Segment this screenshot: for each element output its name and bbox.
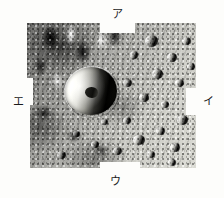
small-crater — [187, 63, 195, 70]
small-crater — [152, 69, 163, 79]
small-crater — [170, 143, 180, 152]
small-crater — [147, 151, 155, 158]
small-crater — [101, 119, 108, 125]
small-crater — [113, 147, 122, 155]
callout-label-u: ウ — [110, 176, 121, 187]
small-crater — [182, 37, 191, 45]
small-crater — [133, 135, 145, 145]
main-crater — [65, 67, 117, 115]
small-crater — [145, 35, 158, 47]
small-crater — [168, 159, 176, 166]
small-crater — [156, 127, 165, 135]
small-crater — [161, 101, 169, 108]
callout-label-i: イ — [203, 96, 214, 107]
small-crater — [73, 131, 80, 137]
small-crater — [167, 53, 177, 62]
callout-label-e: エ — [13, 96, 24, 107]
small-crater — [177, 115, 188, 125]
main-crater-central-peak — [85, 87, 98, 98]
callout-label-a: ア — [112, 9, 123, 20]
small-crater — [175, 79, 184, 87]
surface-photograph — [27, 23, 196, 168]
small-crater — [57, 151, 66, 159]
figure-root: ア イ ウ エ — [0, 0, 224, 198]
small-crater — [123, 79, 132, 87]
small-crater — [139, 93, 149, 102]
small-crater — [130, 51, 138, 59]
small-crater — [91, 141, 99, 148]
small-crater — [123, 117, 131, 124]
